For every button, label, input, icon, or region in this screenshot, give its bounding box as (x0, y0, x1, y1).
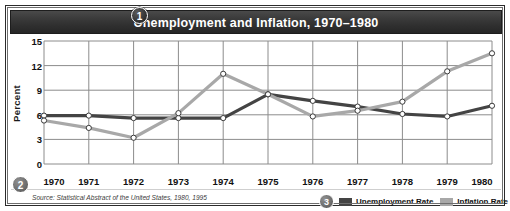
x-axis-ticks: 1970197119721973197419751976197719781979… (10, 176, 502, 190)
footer-divider (11, 189, 501, 190)
page-title: Unemployment and Inflation, 1970–1980 (11, 11, 501, 35)
x-tick-label: 1971 (78, 176, 99, 187)
x-tick-label: 1974 (213, 176, 234, 187)
legend-item-unemployment: Unemployment Rate (339, 197, 433, 206)
callout-badge-3: 3 (319, 194, 334, 209)
legend-label-inflation: Inflation Rate (457, 197, 508, 206)
x-tick-label: 1970 (43, 176, 64, 187)
x-tick-label: 1977 (347, 176, 368, 187)
x-tick-label: 1975 (257, 176, 278, 187)
legend-swatch-inflation (440, 198, 453, 206)
line-chart-svg (10, 36, 502, 174)
x-tick-label: 1979 (437, 176, 458, 187)
x-tick-label: 1972 (123, 176, 144, 187)
callout-badge-2: 2 (12, 176, 29, 193)
legend-label-unemployment: Unemployment Rate (356, 197, 433, 206)
callout-badge-1: 1 (131, 7, 148, 24)
x-tick-label: 1978 (392, 176, 413, 187)
chart-legend: Unemployment Rate Inflation Rate (339, 195, 508, 208)
x-tick-label: 1976 (302, 176, 323, 187)
legend-swatch-unemployment (339, 198, 352, 206)
legend-item-inflation: Inflation Rate (440, 197, 508, 206)
chart-figure: Unemployment and Inflation, 1970–1980 1 … (5, 5, 505, 206)
x-tick-label: 1980 (471, 176, 492, 187)
chart-title-bar: Unemployment and Inflation, 1970–1980 (10, 10, 502, 34)
source-note: Source: Statistical Abstract of the Unit… (32, 194, 207, 201)
x-tick-label: 1973 (168, 176, 189, 187)
plot-area: Percent 03691215 19701971197219731974197… (10, 36, 502, 174)
